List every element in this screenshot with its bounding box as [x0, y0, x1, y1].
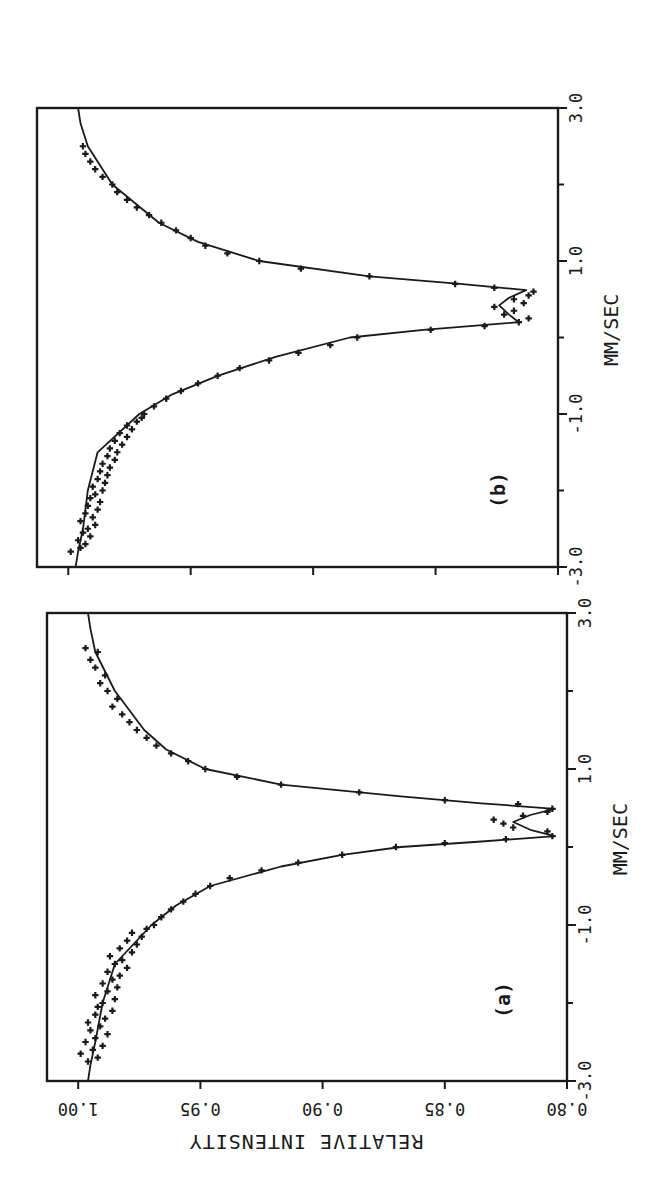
intensity-tick-label: 0.85: [424, 1099, 465, 1119]
data-point-marker: [92, 1012, 98, 1018]
data-point-marker: [97, 499, 103, 505]
mossbauer-figure: -3.0-1.01.03.0MM/SEC(b) 0.800.850.900.95…: [0, 0, 666, 1191]
data-point-marker: [114, 984, 120, 990]
data-point-marker: [97, 468, 103, 474]
data-point-marker: [82, 510, 88, 516]
data-point-marker: [92, 522, 98, 528]
data-point-marker: [129, 426, 135, 432]
data-point-marker: [92, 664, 98, 670]
data-point-marker: [530, 288, 536, 294]
data-point-marker: [99, 487, 105, 493]
data-point-marker: [452, 281, 458, 287]
data-point-marker: [109, 1008, 115, 1014]
data-point-marker: [295, 859, 301, 865]
data-point-marker: [85, 1019, 91, 1025]
data-point-marker: [82, 541, 88, 547]
chart-panel-a: 0.800.850.900.951.00-3.0-1.01.03.0MM/SEC…: [47, 598, 632, 1119]
fit-curve: [88, 613, 555, 1081]
data-point-marker: [256, 258, 262, 264]
data-point-marker: [94, 476, 100, 482]
data-point-marker: [151, 922, 157, 928]
data-point-marker: [143, 735, 149, 741]
data-point-marker: [99, 1000, 105, 1006]
velocity-tick-label: 3.0: [575, 598, 595, 629]
data-point-marker: [104, 472, 110, 478]
data-point-marker: [124, 434, 130, 440]
data-point-marker: [112, 457, 118, 463]
data-points: [77, 645, 555, 1065]
velocity-tick-label: -1.0: [566, 394, 586, 435]
data-point-marker: [99, 174, 105, 180]
data-point-marker: [366, 273, 372, 279]
data-point-marker: [491, 304, 497, 310]
plot-frame: [37, 108, 558, 567]
data-point-marker: [95, 1004, 101, 1010]
data-point-marker: [68, 549, 74, 555]
data-point-marker: [491, 285, 497, 291]
data-point-marker: [510, 824, 516, 830]
plot-frame: [47, 613, 567, 1081]
data-point-marker: [92, 1035, 98, 1041]
data-point-marker: [77, 1051, 83, 1057]
fit-curve: [76, 108, 527, 567]
y-axis-label: RELATIVE INTENSITY: [189, 1130, 424, 1154]
data-point-marker: [77, 518, 83, 524]
data-point-marker: [549, 833, 555, 839]
velocity-tick-label: -3.0: [575, 1061, 595, 1102]
data-point-marker: [80, 529, 86, 535]
data-point-marker: [236, 365, 242, 371]
data-point-marker: [109, 703, 115, 709]
data-point-marker: [490, 817, 496, 823]
data-point-marker: [525, 292, 531, 298]
data-point-marker: [521, 300, 527, 306]
data-point-marker: [112, 996, 118, 1002]
velocity-tick-label: 3.0: [566, 93, 586, 124]
data-point-marker: [107, 953, 113, 959]
data-point-marker: [107, 464, 113, 470]
x-axis-label: MM/SEC: [599, 294, 623, 366]
data-point-marker: [87, 1027, 93, 1033]
data-point-marker: [124, 937, 130, 943]
data-point-marker: [99, 461, 105, 467]
data-point-marker: [427, 327, 433, 333]
data-point-marker: [129, 930, 135, 936]
chart-panel-b: -3.0-1.01.03.0MM/SEC(b): [37, 93, 623, 588]
data-point-marker: [119, 711, 125, 717]
data-point-marker: [85, 526, 91, 532]
data-point-marker: [107, 445, 113, 451]
data-point-marker: [94, 506, 100, 512]
data-point-marker: [117, 973, 123, 979]
data-point-marker: [90, 514, 96, 520]
data-point-marker: [129, 949, 135, 955]
data-point-marker: [202, 766, 208, 772]
data-point-marker: [117, 945, 123, 951]
data-point-marker: [134, 204, 140, 210]
data-point-marker: [500, 820, 506, 826]
data-point-marker: [92, 491, 98, 497]
data-point-marker: [278, 781, 284, 787]
data-point-marker: [97, 680, 103, 686]
data-point-marker: [99, 1043, 105, 1049]
velocity-tick-label: -3.0: [566, 547, 586, 588]
intensity-tick-label: 0.95: [180, 1099, 221, 1119]
data-point-marker: [178, 388, 184, 394]
data-point-marker: [503, 836, 509, 842]
data-point-marker: [104, 453, 110, 459]
data-point-marker: [82, 645, 88, 651]
data-point-marker: [511, 308, 517, 314]
data-point-marker: [82, 151, 88, 157]
data-point-marker: [92, 166, 98, 172]
data-point-marker: [525, 315, 531, 321]
data-point-marker: [90, 1047, 96, 1053]
data-point-marker: [104, 688, 110, 694]
shared-axis-labels: RELATIVE INTENSITY: [189, 1130, 424, 1154]
velocity-tick-label: 1.0: [575, 754, 595, 785]
data-point-marker: [102, 1015, 108, 1021]
data-point-marker: [87, 495, 93, 501]
data-point-marker: [339, 852, 345, 858]
data-points: [68, 143, 537, 555]
data-point-marker: [102, 480, 108, 486]
data-point-marker: [104, 969, 110, 975]
x-axis-label: MM/SEC: [608, 803, 632, 875]
data-point-marker: [354, 334, 360, 340]
